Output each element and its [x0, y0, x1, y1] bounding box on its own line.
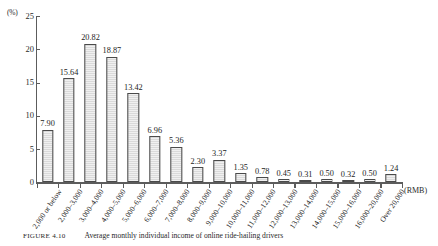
- bar: [321, 179, 332, 182]
- bar-value-label: 0.32: [341, 170, 356, 179]
- bar-group: 2.30: [187, 16, 208, 182]
- bar-group: 15.64: [58, 16, 79, 182]
- y-axis-tick-mark: [36, 149, 40, 150]
- bar-group: 13.42: [123, 16, 144, 182]
- bar-group: 1.35: [230, 16, 251, 182]
- bar-value-label: 15.64: [60, 68, 79, 77]
- x-axis-label-group: 2,000 or below2,000–3,0003,000–4,0004,00…: [37, 188, 402, 232]
- bar-value-label: 0.31: [298, 170, 313, 179]
- y-axis-tick-label: 25: [18, 12, 34, 21]
- bar: [342, 180, 353, 182]
- bar: [299, 180, 310, 182]
- figure-caption-text: Average monthly individual income of onl…: [84, 231, 283, 240]
- y-axis-tick-label: 10: [18, 111, 34, 120]
- figure-caption: FIGURE 4.10 Average monthly individual i…: [23, 231, 433, 241]
- bar-value-label: 0.45: [276, 169, 291, 178]
- y-axis-tick-label: 20: [18, 45, 34, 54]
- x-axis-category-label: 2,000 or below: [31, 188, 64, 231]
- bar-group: 18.87: [101, 16, 122, 182]
- bar-group: 0.78: [252, 16, 273, 182]
- bar-value-label: 18.87: [103, 46, 122, 55]
- bar-value-label: 0.78: [255, 167, 270, 176]
- bar-value-label: 6.96: [148, 126, 163, 135]
- y-axis-tick-group: 0510152025: [0, 0, 34, 246]
- bar-value-label: 1.35: [234, 163, 249, 172]
- plot-area: 7.9015.6420.8218.8713.426.965.362.303.37…: [37, 16, 402, 182]
- bar-value-label: 3.37: [212, 149, 227, 158]
- bar-group: 1.24: [380, 16, 401, 182]
- y-axis-tick-label: 0: [18, 178, 34, 187]
- bar: [235, 173, 246, 182]
- x-axis-unit-label: (RMB): [404, 186, 427, 195]
- y-axis-tick-label: 5: [18, 145, 34, 154]
- bar: [385, 174, 396, 182]
- bar-group: 0.32: [337, 16, 358, 182]
- bar-value-label: 2.30: [191, 157, 206, 166]
- bar: [63, 78, 74, 182]
- bar-value-label: 5.36: [169, 136, 184, 145]
- y-axis-tick-mark: [36, 83, 40, 84]
- bar-value-label: 1.24: [384, 164, 399, 173]
- bar: [214, 160, 225, 182]
- bar: [171, 147, 182, 183]
- bar-value-label: 0.50: [362, 169, 377, 178]
- figure-container: (%) 0510152025 7.9015.6420.8218.8713.426…: [0, 0, 438, 246]
- y-axis-tick-mark: [36, 16, 40, 17]
- bar: [42, 130, 53, 183]
- bar: [106, 57, 117, 183]
- bar-group: 0.45: [273, 16, 294, 182]
- bar: [149, 136, 160, 182]
- bar: [85, 44, 96, 183]
- bar-group: 7.90: [37, 16, 58, 182]
- y-axis-tick-label: 15: [18, 78, 34, 87]
- bar-group: 6.96: [144, 16, 165, 182]
- bar-group: 20.82: [80, 16, 101, 182]
- bar: [364, 179, 375, 182]
- bar-value-label: 0.50: [319, 169, 334, 178]
- bar-group: 5.36: [166, 16, 187, 182]
- y-axis-tick-mark: [36, 49, 40, 50]
- bar-group: 0.50: [359, 16, 380, 182]
- bar-group: 0.31: [294, 16, 315, 182]
- bar-group: 3.37: [209, 16, 230, 182]
- bar: [128, 93, 139, 182]
- bar: [257, 177, 268, 182]
- bar: [278, 179, 289, 182]
- bar-value-label: 20.82: [81, 33, 100, 42]
- bar: [192, 167, 203, 182]
- bar-value-label: 7.90: [40, 119, 55, 128]
- y-axis-tick-mark: [36, 116, 40, 117]
- bar-group: 0.50: [316, 16, 337, 182]
- bar-value-label: 13.42: [124, 83, 143, 92]
- figure-caption-label: FIGURE 4.10: [23, 232, 66, 240]
- x-axis-tick-mark: [402, 184, 403, 188]
